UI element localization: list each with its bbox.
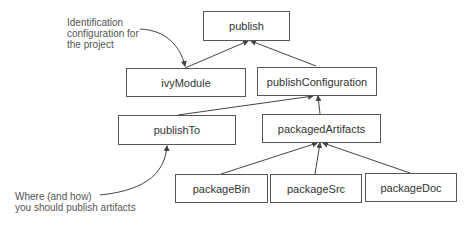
node-publishto: publishTo [118,115,236,145]
node-label: packageDoc [380,182,441,194]
edge-packagebin-packagedartifacts [221,143,317,174]
node-label: packageBin [193,183,251,195]
node-label: publishConfiguration [267,76,367,88]
annotation-line: the project [67,39,139,50]
annotation-line: Where (and how) [15,191,136,202]
annotation-arrow-publishto [100,146,167,195]
edge-packagedartifacts-publishconfiguration [318,96,320,114]
edge-packagedoc-packagedartifacts [323,143,410,173]
node-packagedoc: packageDoc [365,173,457,202]
edge-publishto-publishconfiguration [178,96,313,115]
edge-packagesrc-packagedartifacts [315,143,320,174]
annotation-arrow-ivymodule [140,29,185,66]
node-packagedartifacts: packagedArtifacts [262,114,381,143]
annotation-line: Identification [67,17,139,28]
node-label: publish [229,20,264,32]
node-packagebin: packageBin [175,174,268,203]
node-publish: publish [203,11,290,41]
node-label: packagedArtifacts [278,123,365,135]
annotation-ivymodule: Identification configuration for the pro… [67,17,139,50]
node-packagesrc: packageSrc [270,174,362,203]
node-label: publishTo [154,124,200,136]
annotation-line: configuration for [67,28,139,39]
node-ivymodule: ivyModule [126,68,246,97]
edge-publishconfiguration-publish [251,41,316,66]
node-publishconfiguration: publishConfiguration [257,67,377,96]
annotation-publishto: Where (and how) you should publish artif… [15,191,136,213]
node-label: ivyModule [161,77,211,89]
annotation-line: you should publish artifacts [15,202,136,213]
node-label: packageSrc [287,183,345,195]
edge-ivymodule-publish [185,41,248,68]
